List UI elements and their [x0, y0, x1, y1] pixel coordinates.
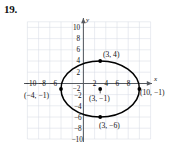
point-left-vertex	[59, 87, 63, 91]
coordinate-plot: x y −10 −8 −6 −2 2 4 6 8 10 8 6 4 2 −2 −…	[0, 0, 175, 145]
x-tick--10: −10	[25, 80, 37, 88]
x-axis-arrow	[147, 81, 152, 86]
label-bottom-vertex: (3, −6)	[99, 121, 120, 130]
grid-lines	[27, 22, 150, 139]
x-axis-label: x	[153, 75, 158, 83]
x-tick--8: −8	[38, 80, 46, 88]
point-bottom-vertex	[98, 115, 102, 119]
label-top-vertex: (3, 4)	[103, 50, 120, 59]
y-tick--8: −8	[74, 125, 82, 133]
y-axis-arrow	[81, 18, 86, 23]
x-tick-4: 4	[105, 80, 109, 88]
math-figure: 19.	[0, 0, 175, 145]
x-tick-6: 6	[116, 80, 120, 88]
plot-points	[59, 59, 141, 119]
y-tick--10: −10	[72, 136, 84, 144]
y-axis-label: y	[85, 16, 90, 24]
x-tick-8: 8	[127, 80, 131, 88]
x-tick-2: 2	[93, 80, 97, 88]
y-tick-8: 8	[76, 35, 80, 43]
y-tick-2: 2	[76, 69, 80, 77]
y-tick--4: −4	[74, 103, 82, 111]
label-right-vertex: (10, −1)	[140, 88, 165, 97]
label-left-vertex: (−4, −1)	[24, 91, 49, 100]
label-center: (3, −1)	[89, 94, 110, 103]
point-top-vertex	[98, 59, 102, 63]
y-tick-6: 6	[76, 46, 80, 54]
y-tick-10: 10	[73, 24, 81, 32]
x-tick--6: −6	[49, 80, 57, 88]
y-tick--2: −2	[74, 92, 82, 100]
y-tick--6: −6	[74, 114, 82, 122]
